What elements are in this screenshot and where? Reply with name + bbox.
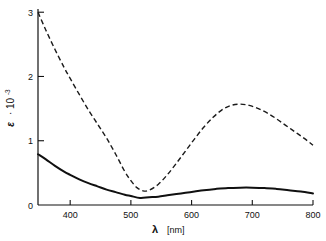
y-ticklabel-3: 3 [28, 8, 33, 18]
x-axis-unit: [nm] [167, 225, 185, 235]
x-axis-title: λ [nm] [152, 223, 184, 235]
x-axis-symbol: λ [152, 223, 158, 235]
y-axis-exponent: -3 [4, 89, 11, 95]
x-ticklabel-500: 500 [123, 210, 138, 220]
y-axis-ticks: 0123 [28, 8, 44, 211]
svg-text:λ [nm]: λ [nm] [152, 223, 184, 235]
svg-text:ε · 10 -3: ε · 10 -3 [4, 89, 16, 127]
chart-figure: 400500600700800 0123 λ [nm] ε · 10 -3 [0, 0, 326, 241]
x-ticklabel-800: 800 [305, 210, 320, 220]
axes [38, 9, 313, 205]
series-solid-curve [38, 154, 313, 198]
y-axis-factor: · 10 [5, 97, 16, 115]
spectrum-plot: 400500600700800 0123 λ [nm] ε · 10 -3 [0, 0, 326, 241]
series-dashed-curve [38, 12, 313, 191]
y-axis-symbol: ε [5, 122, 16, 127]
x-axis-ticks: 400500600700800 [63, 200, 321, 220]
y-ticklabel-1: 1 [28, 136, 33, 146]
y-ticklabel-0: 0 [28, 201, 33, 211]
x-ticklabel-400: 400 [63, 210, 78, 220]
x-ticklabel-600: 600 [184, 210, 199, 220]
y-axis-title: ε · 10 -3 [4, 89, 16, 127]
x-ticklabel-700: 700 [245, 210, 260, 220]
y-ticklabel-2: 2 [28, 72, 33, 82]
